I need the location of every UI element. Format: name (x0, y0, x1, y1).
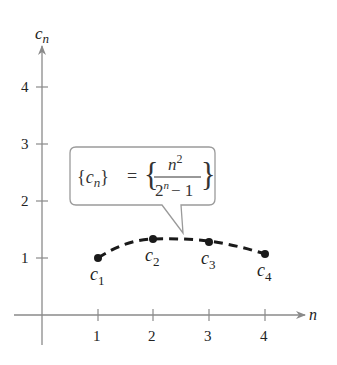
sequence-curve (98, 239, 265, 258)
x-tick-label-2: 2 (148, 328, 156, 344)
formula-denominator: 2n− 1 (155, 179, 193, 200)
data-point-c1 (94, 254, 102, 262)
chart-canvas: 1 2 3 4 1 2 3 4 n cn c1 c2 c3 c4 {cn} = … (0, 0, 337, 365)
formula-lhs: {cn} (77, 167, 109, 190)
point-label-c2: c2 (145, 245, 160, 269)
y-tick-label-3: 3 (21, 136, 29, 152)
data-point-c4 (261, 250, 269, 258)
y-tick-label-4: 4 (21, 79, 29, 95)
point-label-c4: c4 (257, 260, 272, 284)
data-point-c2 (149, 235, 157, 243)
x-axis-label: n (309, 306, 317, 323)
formula-equals: = (127, 166, 137, 186)
formula-brace-close: } (201, 155, 215, 192)
y-tick-label-1: 1 (21, 250, 29, 266)
y-tick-label-2: 2 (21, 193, 29, 209)
point-label-c1: c1 (90, 264, 105, 288)
y-axis-label: cn (35, 24, 49, 46)
x-tick-label-4: 4 (260, 328, 268, 344)
point-label-c3: c3 (201, 248, 216, 272)
data-point-c3 (205, 238, 213, 246)
x-tick-label-3: 3 (204, 328, 212, 344)
x-tick-label-1: 1 (93, 328, 101, 344)
